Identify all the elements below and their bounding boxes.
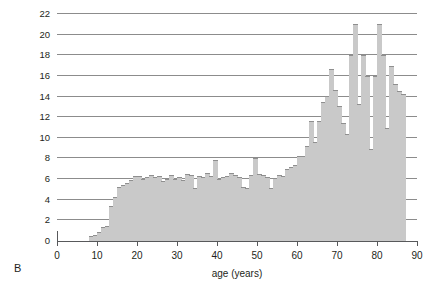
histogram-series bbox=[57, 14, 417, 241]
x-tick bbox=[377, 241, 378, 246]
x-tick-label: 40 bbox=[197, 250, 237, 261]
x-tick-label: 70 bbox=[317, 250, 357, 261]
x-tick bbox=[177, 241, 178, 246]
chart-figure: gonadotropin (units /day) 01020304050607… bbox=[0, 0, 433, 291]
x-tick bbox=[217, 241, 218, 246]
histogram-bar bbox=[401, 94, 406, 241]
x-tick-label: 30 bbox=[157, 250, 197, 261]
x-tick-label: 90 bbox=[397, 250, 433, 261]
y-tick-label: 6 bbox=[12, 174, 50, 184]
y-tick-label: 10 bbox=[12, 133, 50, 143]
x-axis-title: age (years) bbox=[57, 268, 417, 279]
y-tick-label: 14 bbox=[12, 92, 50, 102]
y-tick-label: 0 bbox=[12, 236, 50, 246]
x-tick bbox=[337, 241, 338, 246]
y-tick-label: 18 bbox=[12, 50, 50, 60]
y-tick-label: 2 bbox=[12, 215, 50, 225]
x-tick-label: 50 bbox=[237, 250, 277, 261]
x-tick-label: 0 bbox=[37, 250, 77, 261]
x-tick-label: 10 bbox=[77, 250, 117, 261]
x-tick bbox=[97, 241, 98, 246]
x-tick-label: 20 bbox=[117, 250, 157, 261]
x-axis-line bbox=[57, 241, 417, 242]
x-tick bbox=[417, 241, 418, 246]
y-tick-label: 20 bbox=[12, 30, 50, 40]
x-tick bbox=[57, 241, 58, 246]
x-tick-label: 80 bbox=[357, 250, 397, 261]
y-tick-label: 12 bbox=[12, 112, 50, 122]
x-tick bbox=[257, 241, 258, 246]
y-axis-line bbox=[57, 231, 58, 241]
y-tick-label: 16 bbox=[12, 71, 50, 81]
y-tick-label: 4 bbox=[12, 195, 50, 205]
panel-label: B bbox=[14, 262, 21, 274]
y-tick-label: 8 bbox=[12, 153, 50, 163]
y-tick-label: 22 bbox=[12, 9, 50, 19]
x-tick bbox=[137, 241, 138, 246]
x-tick bbox=[297, 241, 298, 246]
x-tick-label: 60 bbox=[277, 250, 317, 261]
plot-area: 0102030405060708090 age (years) bbox=[57, 14, 417, 241]
